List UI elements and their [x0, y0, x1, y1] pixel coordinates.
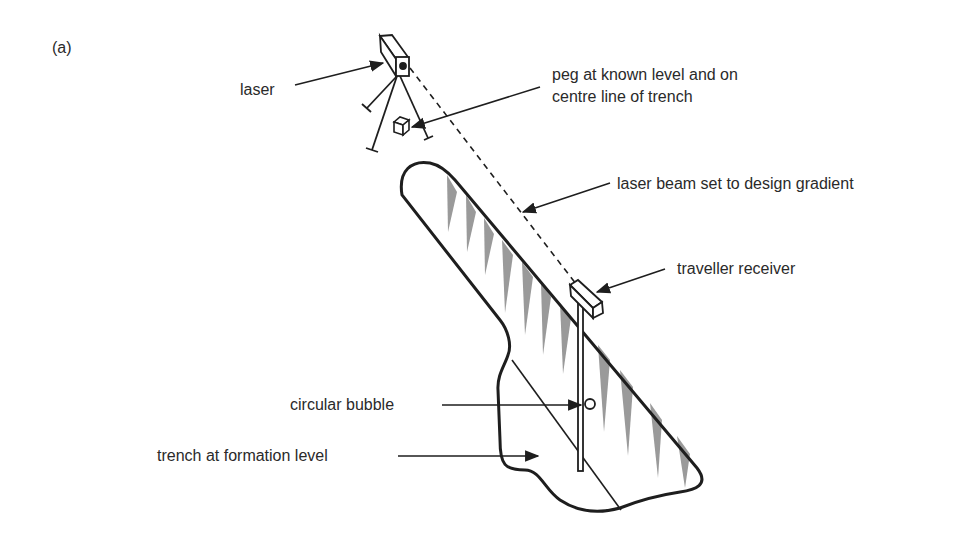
laser-arrow: [295, 63, 383, 85]
label-trench: trench at formation level: [157, 447, 328, 464]
label-circular-bubble: circular bubble: [290, 396, 394, 413]
label-peg-line2: centre line of trench: [552, 88, 693, 105]
label-peg-line1: peg at known level and on: [552, 66, 738, 83]
label-laser-beam: laser beam set to design gradient: [617, 175, 854, 192]
circular-bubble-icon: [585, 399, 595, 409]
label-traveller-receiver: traveller receiver: [677, 260, 796, 277]
laser-unit: [362, 35, 433, 152]
label-laser: laser: [240, 81, 275, 98]
beam-arrow: [523, 183, 610, 212]
receiver-arrow: [597, 269, 665, 292]
trench-hatching: [447, 175, 690, 488]
laser-trench-diagram: (a): [0, 0, 973, 544]
panel-label: (a): [52, 39, 72, 56]
traveller-receiver: [570, 280, 603, 471]
peg-cube: [394, 117, 409, 135]
peg-arrow: [412, 87, 540, 127]
